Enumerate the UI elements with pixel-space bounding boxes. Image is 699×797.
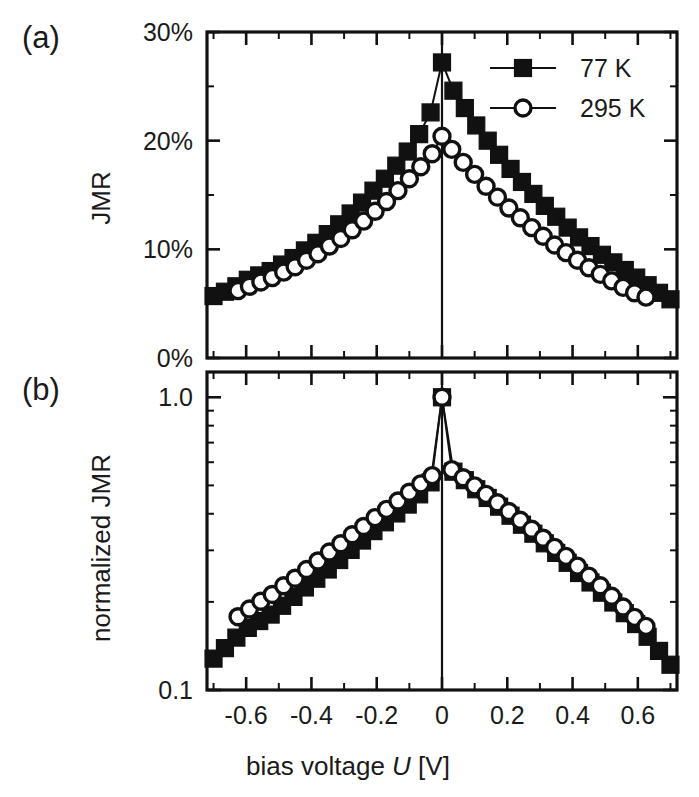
y-tick-label: 30% bbox=[143, 18, 193, 46]
y-tick-label: 0% bbox=[157, 344, 193, 372]
y-tick-label: 20% bbox=[143, 127, 193, 155]
panel-a-y-axis-title: JMR bbox=[86, 171, 116, 224]
scientific-figure: (a) (b) JMR normalized JMR 0%10%20%30% -… bbox=[0, 0, 699, 797]
x-tick-label: 0.4 bbox=[555, 701, 590, 729]
data-point-77K bbox=[411, 126, 428, 143]
x-axis-title-symbol: U bbox=[392, 751, 411, 781]
panel-a-label: (a) bbox=[22, 20, 60, 55]
svg-text:bias voltage: bias voltage U [V] bbox=[246, 751, 450, 781]
legend-marker-filled-square bbox=[515, 60, 532, 77]
data-point-77K bbox=[434, 54, 451, 71]
x-tick-label: -0.4 bbox=[290, 701, 333, 729]
legend-label-0: 77 K bbox=[580, 54, 632, 82]
data-point-77K bbox=[662, 656, 679, 673]
x-tick-label: 0 bbox=[435, 701, 449, 729]
x-tick-label: -0.6 bbox=[225, 701, 268, 729]
data-point-77K bbox=[422, 104, 439, 121]
legend-label-1: 295 K bbox=[580, 94, 646, 122]
y-tick-label: 0.1 bbox=[158, 676, 193, 704]
panel-b-label: (b) bbox=[22, 372, 60, 407]
data-point-77K bbox=[468, 117, 485, 134]
y-tick-label: 10% bbox=[143, 235, 193, 263]
panel-b-plot: -0.6-0.4-0.200.20.40.60.11.0 bbox=[158, 372, 679, 729]
legend-marker-open-circle bbox=[515, 100, 531, 116]
x-axis-title-main: bias voltage bbox=[246, 751, 385, 781]
x-axis-title: bias voltage U [V] bbox=[246, 751, 450, 781]
data-point-295K bbox=[424, 468, 440, 484]
legend: 77 K295 K bbox=[490, 54, 646, 122]
data-point-295K bbox=[638, 289, 654, 305]
x-tick-label: 0.6 bbox=[620, 701, 655, 729]
data-point-295K bbox=[434, 389, 450, 405]
data-point-77K bbox=[662, 291, 679, 308]
x-tick-label: -0.2 bbox=[355, 701, 398, 729]
x-axis-title-unit: [V] bbox=[418, 751, 450, 781]
y-tick-label: 1.0 bbox=[158, 383, 193, 411]
figure-root: (a) (b) JMR normalized JMR 0%10%20%30% -… bbox=[0, 0, 699, 797]
data-point-77K bbox=[399, 143, 416, 160]
data-point-295K bbox=[638, 618, 654, 634]
data-point-295K bbox=[424, 146, 440, 162]
x-tick-label: 0.2 bbox=[490, 701, 525, 729]
panel-b-y-axis-title: normalized JMR bbox=[86, 454, 116, 642]
data-point-77K bbox=[456, 100, 473, 117]
data-point-77K bbox=[445, 82, 462, 99]
